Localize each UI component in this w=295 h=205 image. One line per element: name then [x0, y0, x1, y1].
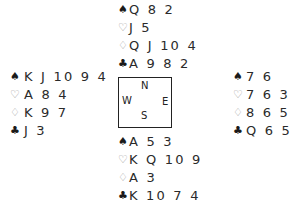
- club-icon: ♣: [232, 122, 244, 140]
- heart-icon: ♡: [117, 19, 129, 37]
- east-clubs-cards: Q 6 5: [246, 122, 292, 140]
- spade-icon: ♠: [117, 1, 129, 19]
- compass-west-label: W: [122, 96, 132, 106]
- diamond-icon: ♢: [117, 37, 129, 55]
- compass-south-label: S: [141, 111, 147, 121]
- east-diamonds-cards: 8 6 5 2: [246, 104, 295, 122]
- club-icon: ♣: [117, 55, 129, 73]
- west-hearts-cards: A 8 4: [24, 86, 69, 104]
- heart-icon: ♡: [117, 151, 129, 169]
- west-spades-cards: K J 10 9 4: [24, 68, 108, 86]
- compass-north-label: N: [141, 81, 148, 91]
- south-hearts-cards: K Q 10 9: [129, 151, 203, 169]
- south-clubs-cards: K 10 7 4: [129, 187, 201, 205]
- club-icon: ♣: [117, 187, 129, 205]
- north-clubs-cards: A 9 8 2: [129, 55, 191, 73]
- north-spades-cards: Q 8 2: [129, 1, 175, 19]
- spade-icon: ♠: [9, 68, 21, 86]
- heart-icon: ♡: [232, 86, 244, 104]
- compass-box: N W E S: [118, 77, 172, 128]
- spade-icon: ♠: [117, 133, 129, 151]
- north-diamonds-cards: Q J 10 4: [129, 37, 198, 55]
- south-diamonds-cards: A 3: [129, 169, 157, 187]
- east-hearts-cards: 7 6 3 2: [246, 86, 295, 104]
- compass-east-label: E: [162, 97, 168, 107]
- club-icon: ♣: [9, 122, 21, 140]
- diamond-icon: ♢: [117, 169, 129, 187]
- spade-icon: ♠: [232, 68, 244, 86]
- west-diamonds-cards: K 9 7: [24, 104, 68, 122]
- heart-icon: ♡: [9, 86, 21, 104]
- east-spades-cards: 7 6: [246, 68, 273, 86]
- south-spades-cards: A 5 3: [129, 133, 174, 151]
- west-clubs-cards: J 3: [24, 122, 47, 140]
- diamond-icon: ♢: [232, 104, 244, 122]
- north-hearts-cards: J 5: [129, 19, 152, 37]
- diamond-icon: ♢: [9, 104, 21, 122]
